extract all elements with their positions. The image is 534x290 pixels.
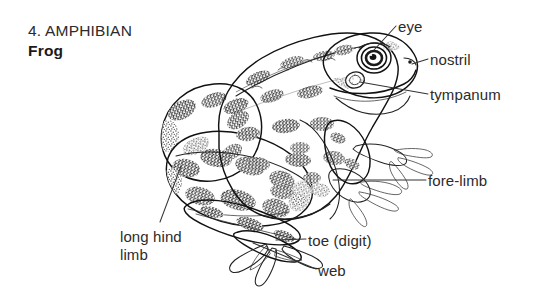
label-eye: eye <box>398 18 423 36</box>
finger-u1 <box>394 149 432 158</box>
fore-limb-group <box>324 120 432 226</box>
label-tympanum: tympanum <box>430 86 501 104</box>
finger-l3 <box>349 199 367 227</box>
label-hind-line1: long hind <box>120 228 182 245</box>
fore-fingers-lower <box>349 181 402 226</box>
label-long-hind-limb: long hindlimb <box>120 228 182 263</box>
eye-highlight <box>370 54 372 56</box>
eye-group <box>357 43 391 73</box>
leader-tympanum <box>360 82 428 94</box>
hind-limb-group <box>157 84 323 286</box>
label-hind-line2: limb <box>120 246 148 263</box>
figure-subject-title: Frog <box>28 42 63 60</box>
nostril-point <box>408 60 412 64</box>
label-nostril: nostril <box>430 51 471 69</box>
head-group <box>323 33 417 114</box>
label-toe-digit: toe (digit) <box>308 232 372 250</box>
leader-web <box>253 243 316 269</box>
frog-anatomy-figure: 4. AMPHIBIAN Frog <box>0 0 534 290</box>
toe-1 <box>230 244 268 273</box>
figure-category-title: 4. AMPHIBIAN <box>28 22 132 40</box>
frog-illustration <box>0 0 534 290</box>
fore-fingers-upper <box>389 149 432 190</box>
fore-arm-upper <box>353 144 407 166</box>
throat <box>336 96 410 114</box>
label-web: web <box>318 262 346 280</box>
label-fore-limb: fore-limb <box>428 172 487 190</box>
hind-foot-toes <box>230 244 323 286</box>
